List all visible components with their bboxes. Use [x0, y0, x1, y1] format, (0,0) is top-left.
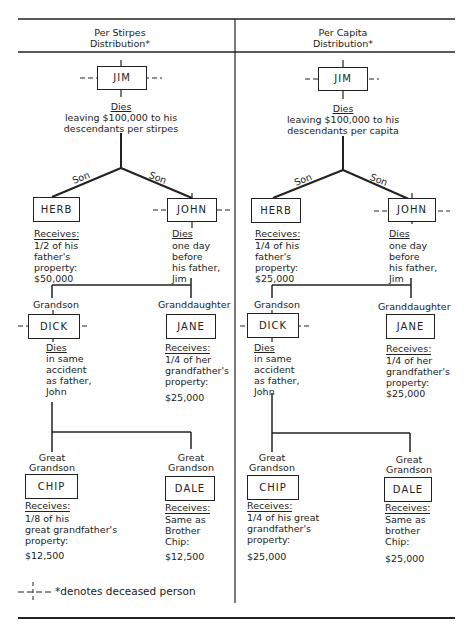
- receives-label: Receives:: [386, 343, 431, 355]
- jane-line: 1/4 of her: [165, 354, 211, 365]
- john-line: one day: [172, 240, 210, 251]
- receives-label: Receives:: [247, 500, 292, 512]
- person-box-jane: JANE: [166, 314, 216, 339]
- receives-label: Receives:: [25, 500, 70, 512]
- john-line: his father,: [389, 262, 437, 273]
- herb-line: 1/4 of his: [255, 240, 299, 251]
- jim-note-1: leaving $100,000 to his: [61, 112, 181, 123]
- person-box-herb: HERB: [33, 197, 80, 222]
- person-box-dale: DALE: [165, 476, 215, 501]
- header-per-capita-line2: Distribution*: [283, 38, 403, 49]
- jim-status: Dies: [313, 103, 373, 114]
- chip-line: grandfather's: [247, 523, 311, 534]
- person-box-jim: JIM: [318, 67, 368, 91]
- jane-line: property:: [165, 376, 208, 387]
- person-box-john: JOHN: [388, 198, 436, 222]
- person-box-chip: CHIP: [247, 475, 299, 500]
- dick-line: as father,: [254, 375, 299, 386]
- dick-line: as father,: [46, 375, 91, 386]
- person-box-john: JOHN: [167, 198, 217, 222]
- grandson-label: Grandson: [33, 299, 79, 310]
- john-line: one day: [389, 240, 427, 251]
- dick-line: accident: [254, 364, 295, 375]
- person-name: HERB: [260, 205, 292, 216]
- jane-heading: Receives:: [386, 343, 431, 355]
- dale-line: brother: [385, 525, 420, 536]
- person-name: JANE: [397, 321, 424, 332]
- dick-line: John: [46, 386, 67, 397]
- jane-line: 1/4 of her: [386, 355, 432, 366]
- herb-line: 1/2 of his: [34, 240, 78, 251]
- john-line: before: [389, 251, 420, 262]
- herb-line: property:: [34, 262, 77, 273]
- jane-amount: $25,000: [165, 392, 204, 403]
- jane-amount: $25,000: [386, 388, 425, 399]
- dick-line: John: [254, 386, 275, 397]
- jane-line: grandfather's: [386, 366, 450, 377]
- john-line: Jim: [389, 273, 404, 284]
- chip-line: great grandfather's: [25, 524, 117, 535]
- john-line: Jim: [172, 273, 187, 284]
- herb-line: father's: [34, 251, 70, 262]
- person-name: DICK: [38, 321, 70, 332]
- dick-heading: Dies: [46, 342, 67, 353]
- great-grandson-label: Grandson: [166, 462, 216, 473]
- dick-line: accident: [46, 364, 87, 375]
- herb-line: father's: [255, 251, 291, 262]
- person-name: DALE: [393, 484, 423, 495]
- chip-heading: Receives:: [247, 500, 292, 512]
- chip-heading: Receives:: [25, 500, 70, 512]
- person-box-herb: HERB: [251, 198, 301, 223]
- dale-line: Brother: [165, 525, 201, 536]
- jane-line: property:: [386, 377, 429, 388]
- dale-line: Chip:: [385, 536, 410, 547]
- person-name: DALE: [175, 483, 205, 494]
- herb-amount: $50,000: [34, 273, 73, 284]
- john-heading: Dies: [389, 228, 410, 239]
- dick-heading: Dies: [254, 342, 275, 353]
- person-box-dick: DICK: [28, 314, 80, 339]
- dale-amount: $12,500: [165, 551, 204, 562]
- john-heading: Dies: [172, 228, 193, 239]
- person-name: DICK: [257, 320, 289, 331]
- jim-status: Dies: [91, 101, 151, 112]
- dick-line: in same: [254, 353, 292, 364]
- jim-note-1: leaving $100,000 to his: [283, 114, 403, 125]
- legend-text: *denotes deceased person: [55, 586, 196, 597]
- herb-heading: Receives:: [34, 228, 79, 240]
- herb-amount: $25,000: [255, 273, 294, 284]
- chip-amount: $12,500: [25, 550, 64, 561]
- jane-line: grandfather's: [165, 365, 229, 376]
- dale-line: Same as: [165, 514, 206, 525]
- herb-line: property:: [255, 262, 298, 273]
- john-line: his father,: [172, 262, 220, 273]
- person-name: CHIP: [38, 481, 65, 492]
- dale-line: Chip:: [165, 536, 190, 547]
- person-name: JANE: [177, 321, 204, 332]
- receives-label: Receives:: [255, 228, 300, 240]
- jim-note-2: descendants per capita: [283, 125, 403, 136]
- great-grandson-label: Grandson: [247, 462, 297, 473]
- grandson-label: Grandson: [254, 299, 300, 310]
- person-name: JIM: [111, 72, 133, 83]
- receives-label: Receives:: [34, 228, 79, 240]
- john-line: before: [172, 251, 203, 262]
- chip-line: 1/4 of his great: [247, 512, 319, 523]
- jim-note-2: descendants per stirpes: [61, 123, 181, 134]
- person-box-dale: DALE: [384, 477, 432, 502]
- header-per-stirpes-line2: Distribution*: [60, 38, 180, 49]
- header-per-stirpes-line1: Per Stirpes: [60, 27, 180, 38]
- dick-line: in same: [46, 353, 84, 364]
- header-per-capita-line1: Per Capita: [283, 27, 403, 38]
- great-grandson-label: Grandson: [384, 464, 434, 475]
- granddaughter-label: Granddaughter: [158, 299, 231, 310]
- great-grandson-label: Grandson: [27, 462, 77, 473]
- jane-heading: Receives:: [165, 342, 210, 354]
- herb-heading: Receives:: [255, 228, 300, 240]
- person-name: JOHN: [175, 204, 209, 215]
- granddaughter-label: Granddaughter: [378, 301, 451, 312]
- receives-label: Receives:: [385, 502, 430, 514]
- person-name: JOHN: [395, 204, 429, 215]
- dale-line: Same as: [385, 514, 426, 525]
- chip-line: property:: [247, 534, 290, 545]
